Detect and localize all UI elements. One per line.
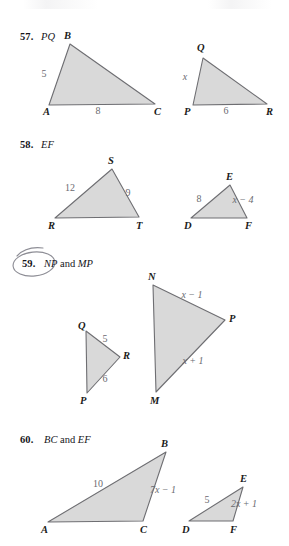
- prompt-run: NP: [44, 258, 57, 269]
- exercise-page: ABC58PQRx6RST129DEF8x − 4QPR56NMPx − 1x …: [0, 0, 289, 546]
- prompt-run: and: [57, 258, 77, 269]
- problem-number: 57.: [20, 31, 33, 42]
- side-measure-label: 7x − 1: [150, 484, 176, 495]
- side-measure-label: x + 1: [181, 355, 203, 366]
- triangle-pqr-shape: [193, 58, 267, 105]
- vertex-label-P: P: [184, 106, 191, 117]
- side-measure-label: 8: [96, 105, 101, 116]
- triangle-rst: RST129: [47, 155, 143, 231]
- vertex-label-M: M: [149, 395, 160, 406]
- problem-number: 60.: [20, 434, 33, 445]
- side-measure-label: 12: [65, 182, 75, 193]
- triangle-nmp: NMPx − 1x + 1: [147, 271, 236, 406]
- vertex-label-P: P: [229, 313, 236, 324]
- vertex-label-N: N: [147, 271, 156, 282]
- prompt-run: MP: [78, 258, 93, 269]
- side-measure-label: 10: [93, 478, 103, 489]
- triangle-def: DEF8x − 4: [183, 171, 254, 231]
- figures-layer: ABC58PQRx6RST129DEF8x − 4QPR56NMPx − 1x …: [0, 0, 289, 546]
- side-measure-label: 8: [197, 193, 202, 204]
- prompt-run: EF: [78, 434, 91, 445]
- triangle-qpr: QPR56: [78, 320, 130, 406]
- vertex-label-E: E: [225, 171, 233, 182]
- problem-number: 58.: [20, 139, 33, 150]
- vertex-label-R: R: [265, 106, 273, 117]
- prompt-run: PQ: [41, 31, 55, 42]
- vertex-label-D: D: [183, 220, 192, 231]
- side-measure-label: 5: [205, 494, 210, 505]
- side-measure-label: x − 1: [180, 289, 202, 300]
- triangle-abc-2: ABC107x − 1: [40, 438, 176, 535]
- problem-number: 59.: [22, 258, 35, 269]
- vertex-label-Q: Q: [197, 42, 205, 53]
- vertex-label-E: E: [239, 473, 247, 484]
- problem-prompt: EF: [41, 139, 54, 150]
- problem-prompt: PQ: [41, 31, 55, 42]
- vertex-label-R: R: [47, 220, 55, 231]
- side-measure-label: 5: [103, 333, 108, 344]
- vertex-label-S: S: [108, 155, 114, 166]
- side-measure-label: 5: [42, 68, 47, 79]
- prompt-run: EF: [41, 139, 54, 150]
- side-measure-label: x: [182, 71, 188, 82]
- prompt-run: BC: [44, 434, 57, 445]
- side-measure-label: 6: [224, 105, 229, 116]
- side-measure-label: 6: [103, 373, 108, 384]
- vertex-label-D: D: [181, 524, 190, 535]
- vertex-label-R: R: [122, 350, 130, 361]
- vertex-label-B: B: [160, 438, 168, 449]
- triangle-abc-2-shape: [48, 452, 166, 522]
- vertex-label-A: A: [40, 524, 48, 535]
- side-measure-label: 2x + 1: [231, 498, 257, 509]
- vertex-label-F: F: [229, 524, 237, 535]
- triangle-pqr: PQRx6: [182, 42, 273, 117]
- problem-prompt: BC and EF: [44, 434, 91, 445]
- triangle-abc-shape: [49, 44, 155, 105]
- vertex-label-C: C: [140, 524, 148, 535]
- prompt-run: and: [57, 434, 77, 445]
- vertex-label-T: T: [136, 220, 143, 231]
- vertex-label-C: C: [154, 106, 162, 117]
- triangle-abc: ABC58: [42, 30, 163, 117]
- side-measure-label: 9: [126, 187, 131, 198]
- vertex-label-Q: Q: [78, 320, 86, 331]
- problem-prompt: NP and MP: [44, 258, 93, 269]
- side-measure-label: x − 4: [231, 194, 253, 205]
- vertex-label-F: F: [244, 220, 252, 231]
- triangle-nmp-shape: [153, 285, 225, 392]
- vertex-label-A: A: [42, 106, 50, 117]
- vertex-label-B: B: [63, 30, 71, 41]
- vertex-label-P: P: [80, 395, 87, 406]
- triangle-def-2: DEF52x + 1: [181, 473, 257, 535]
